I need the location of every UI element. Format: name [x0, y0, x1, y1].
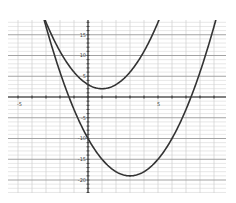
- y-tick-label: -20: [78, 177, 86, 183]
- y-tick-label: -10: [78, 135, 86, 141]
- y-tick-label: 5: [83, 73, 86, 79]
- parabola-chart: -5515105-5-10-15-20: [0, 0, 236, 203]
- y-tick-label: -15: [78, 156, 86, 162]
- y-tick-label: 15: [80, 32, 86, 38]
- grid: [8, 20, 226, 193]
- x-tick-label: -5: [17, 101, 22, 107]
- axes: [8, 20, 226, 193]
- x-tick-label: 5: [157, 101, 160, 107]
- y-tick-label: -5: [81, 115, 86, 121]
- y-tick-label: 10: [80, 52, 86, 58]
